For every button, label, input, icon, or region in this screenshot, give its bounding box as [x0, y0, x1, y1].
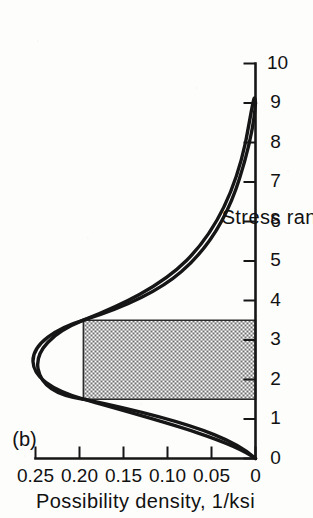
- panel-label: (b): [12, 427, 36, 449]
- x-tick-label: 0: [270, 446, 281, 467]
- x-tick-label: 5: [270, 249, 281, 270]
- x-tick-label: 7: [270, 170, 281, 191]
- x-tick-label: 9: [270, 91, 281, 112]
- y-tick-label: 0: [250, 464, 261, 485]
- x-tick-label: 2: [270, 367, 281, 388]
- figure-rotation-wrapper: 0 1 2 3 4 5 6 7 8 9 10 Stress range, ksi: [0, 0, 313, 518]
- x-axis-tick-labels: 0 1 2 3 4 5 6 7 8 9 10: [266, 51, 287, 467]
- x-tick-label: 1: [270, 407, 281, 428]
- y-tick-label: 0.25: [17, 464, 54, 485]
- y-axis-tick-labels: 0 0.05 0.10 0.15 0.20 0.25: [17, 464, 261, 485]
- density-curve-main: [32, 103, 255, 459]
- x-tick-label: 8: [270, 130, 281, 151]
- y-axis-title: Possibility density, 1/ksi: [36, 489, 255, 511]
- x-tick-label: 4: [270, 288, 281, 309]
- x-axis-title: Stress range, ksi: [221, 205, 313, 227]
- y-axis-ticks: [35, 446, 255, 458]
- possibility-density-chart: 0 1 2 3 4 5 6 7 8 9 10 Stress range, ksi: [0, 0, 313, 518]
- shaded-band: [83, 320, 255, 399]
- y-tick-label: 0.15: [105, 464, 142, 485]
- chart-svg: 0 1 2 3 4 5 6 7 8 9 10 Stress range, ksi: [0, 0, 313, 518]
- y-tick-label: 0.20: [61, 464, 98, 485]
- density-curve: [37, 97, 255, 458]
- x-tick-label: 3: [270, 328, 281, 349]
- x-tick-label: 10: [266, 51, 287, 72]
- y-tick-label: 0.10: [149, 464, 186, 485]
- y-tick-label: 0.05: [193, 464, 230, 485]
